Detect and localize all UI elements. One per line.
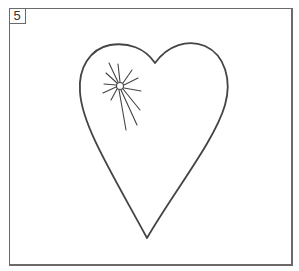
heart-icon — [80, 43, 228, 238]
sparkle-icon — [103, 63, 141, 130]
heart-drawing — [0, 0, 299, 271]
